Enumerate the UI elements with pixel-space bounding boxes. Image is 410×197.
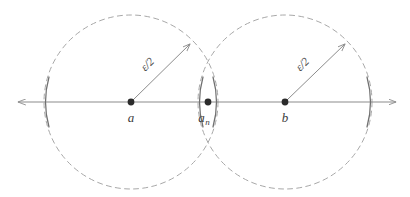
radius-arrow-a <box>133 44 190 100</box>
point-an-label: an <box>198 110 210 127</box>
point-an-label-subscript: n <box>205 117 210 127</box>
radius-label-a: ε/2 <box>138 55 156 73</box>
epsilon-ball-diagram: ε/2 ε/2 a an b <box>0 0 410 197</box>
radius-label-b: ε/2 <box>293 55 311 73</box>
point-label-group: a an b <box>128 110 289 127</box>
point-an-label-base: a <box>198 110 205 125</box>
point-b-dot <box>282 99 289 106</box>
point-a-dot <box>128 99 135 106</box>
radius-arrow-b <box>287 44 345 100</box>
point-b-label: b <box>282 110 289 125</box>
radius-arrow-group <box>133 44 345 100</box>
radius-label-group: ε/2 ε/2 <box>138 55 311 73</box>
point-a-label: a <box>128 110 135 125</box>
point-an-dot <box>205 99 212 106</box>
